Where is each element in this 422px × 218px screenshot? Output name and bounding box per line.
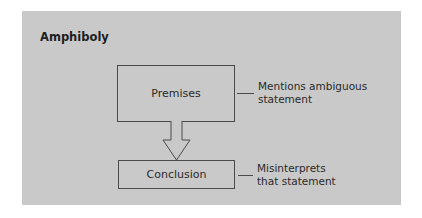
premises-annotation-line2: statement bbox=[258, 93, 367, 106]
conclusion-label: Conclusion bbox=[147, 168, 207, 181]
conclusion-box: Conclusion bbox=[118, 160, 235, 189]
premises-box: Premises bbox=[117, 65, 235, 122]
premises-annotation-line1: Mentions ambiguous bbox=[258, 80, 367, 93]
premises-annotation: Mentions ambiguous statement bbox=[258, 80, 367, 106]
diagram-title: Amphiboly bbox=[40, 30, 109, 44]
premises-annotation-connector bbox=[237, 93, 254, 94]
conclusion-annotation-connector bbox=[238, 175, 253, 176]
conclusion-annotation: Misinterprets that statement bbox=[257, 162, 336, 188]
down-arrow-icon bbox=[160, 121, 194, 163]
conclusion-annotation-line2: that statement bbox=[257, 175, 336, 188]
conclusion-annotation-line1: Misinterprets bbox=[257, 162, 336, 175]
premises-label: Premises bbox=[151, 87, 201, 100]
